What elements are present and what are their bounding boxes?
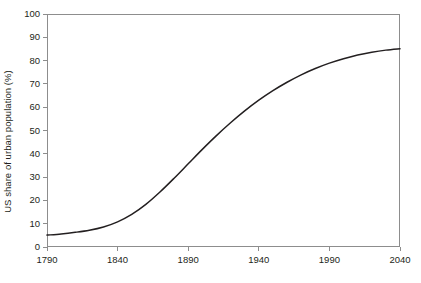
y-axis-tick-label: 10 bbox=[14, 219, 40, 229]
y-axis-tick-label-wrap: 40 bbox=[12, 149, 40, 159]
y-axis-tick-label: 30 bbox=[14, 172, 40, 182]
y-axis-tick-label-wrap: 30 bbox=[12, 172, 40, 182]
y-axis-tick-label-wrap: 70 bbox=[12, 79, 40, 89]
y-axis-tick-label: 60 bbox=[14, 102, 40, 112]
y-axis-title: US share of urban population (%) bbox=[0, 0, 16, 283]
y-axis-tick-label: 0 bbox=[14, 242, 40, 252]
y-axis-tick-label-wrap: 50 bbox=[12, 126, 40, 136]
y-axis-tick-label-wrap: 100 bbox=[12, 9, 40, 19]
x-axis-tick-label: 1940 bbox=[236, 254, 282, 265]
x-axis-tick-label: 1840 bbox=[95, 254, 141, 265]
y-axis-tick-label-wrap: 90 bbox=[12, 32, 40, 42]
y-axis-tick-mark bbox=[43, 177, 47, 178]
y-axis-tick-label: 100 bbox=[14, 9, 40, 19]
x-axis-tick-label: 1890 bbox=[165, 254, 211, 265]
y-axis-tick-mark bbox=[43, 14, 47, 15]
plot-canvas bbox=[47, 14, 400, 247]
y-axis-tick-label: 40 bbox=[14, 149, 40, 159]
x-axis-tick-label: 1790 bbox=[24, 254, 70, 265]
x-axis-tick-label: 2040 bbox=[377, 254, 421, 265]
y-axis-tick-mark bbox=[43, 60, 47, 61]
y-axis-tick-label-wrap: 60 bbox=[12, 102, 40, 112]
x-axis-tick-mark bbox=[400, 247, 401, 251]
y-axis-tick-label-wrap: 10 bbox=[12, 219, 40, 229]
x-axis-tick-mark bbox=[188, 247, 189, 251]
y-axis-tick-label-wrap: 0 bbox=[12, 242, 40, 252]
y-axis-tick-mark bbox=[43, 153, 47, 154]
urbanization-line-chart: US share of urban population (%) 0102030… bbox=[0, 0, 421, 283]
x-axis-tick-mark bbox=[117, 247, 118, 251]
y-axis-tick-mark bbox=[43, 37, 47, 38]
y-axis-tick-mark bbox=[43, 83, 47, 84]
y-axis-tick-label: 80 bbox=[14, 56, 40, 66]
y-axis-tick-label: 50 bbox=[14, 126, 40, 136]
x-axis-tick-mark bbox=[258, 247, 259, 251]
y-axis-tick-mark bbox=[43, 107, 47, 108]
x-axis-tick-mark bbox=[329, 247, 330, 251]
y-axis-tick-label: 20 bbox=[14, 195, 40, 205]
y-axis-tick-mark bbox=[43, 200, 47, 201]
series-line-us-urban-share bbox=[47, 49, 400, 235]
y-axis-tick-label: 90 bbox=[14, 32, 40, 42]
y-axis-tick-label-wrap: 80 bbox=[12, 56, 40, 66]
x-axis-tick-mark bbox=[47, 247, 48, 251]
y-axis-tick-mark bbox=[43, 130, 47, 131]
y-axis-tick-label-wrap: 20 bbox=[12, 195, 40, 205]
x-axis-tick-label: 1990 bbox=[306, 254, 352, 265]
y-axis-tick-mark bbox=[43, 223, 47, 224]
y-axis-tick-label: 70 bbox=[14, 79, 40, 89]
